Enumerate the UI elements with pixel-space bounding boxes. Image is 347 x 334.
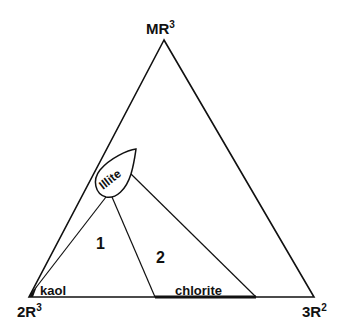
- tie-line-illite-chlorite-right: [131, 174, 256, 297]
- chlorite-label: chlorite: [175, 283, 222, 298]
- ternary-diagram: MR3 2R3 3R2 Illite kaol chlorite 1 2: [0, 0, 347, 334]
- tie-line-illite-kaol: [31, 197, 106, 294]
- tie-line-illite-chlorite-left: [112, 197, 155, 297]
- kaolinite-label: kaol: [40, 283, 66, 298]
- ternary-triangle: [29, 40, 314, 297]
- field-2-label: 2: [156, 249, 165, 266]
- vertex-label-right: 3R2: [302, 302, 327, 320]
- vertex-label-top: MR3: [146, 19, 175, 37]
- vertex-label-left: 2R3: [17, 302, 42, 320]
- field-1-label: 1: [96, 235, 105, 252]
